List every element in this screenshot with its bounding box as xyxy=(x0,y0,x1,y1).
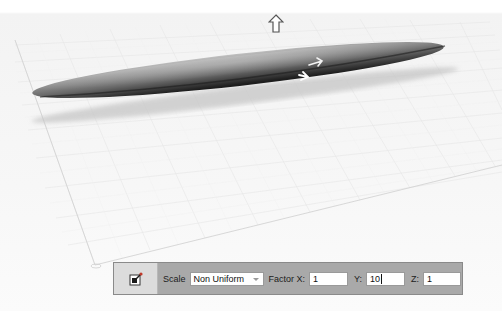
factor-y-input[interactable]: 10 xyxy=(366,272,405,286)
scale-mode-value: Non Uniform xyxy=(194,274,245,284)
move-x-arrow-icon[interactable] xyxy=(307,56,325,70)
chevron-down-icon xyxy=(253,278,259,281)
scale-tool-button[interactable] xyxy=(114,263,158,294)
factor-z-value: 1 xyxy=(427,274,432,284)
factor-y-value: 10 xyxy=(370,274,380,284)
factor-z-label: Z: xyxy=(411,274,419,284)
factor-x-value: 1 xyxy=(313,274,318,284)
scale-mode-dropdown[interactable]: Non Uniform xyxy=(190,272,264,286)
text-cursor xyxy=(381,274,382,284)
scale-tool-icon xyxy=(129,272,143,286)
move-z-arrow-icon[interactable] xyxy=(297,69,311,83)
scale-fields: Scale Non Uniform Factor X: 1 Y: 10 Z: 1 xyxy=(158,263,462,294)
scale-tool-options-bar: Scale Non Uniform Factor X: 1 Y: 10 Z: 1 xyxy=(113,262,463,295)
factor-y-label: Y: xyxy=(354,274,362,284)
move-up-arrow-icon[interactable] xyxy=(268,14,284,34)
factor-z-input[interactable]: 1 xyxy=(423,272,461,286)
factor-x-label: Factor X: xyxy=(269,274,306,284)
scale-label: Scale xyxy=(163,274,186,284)
factor-x-input[interactable]: 1 xyxy=(309,272,348,286)
